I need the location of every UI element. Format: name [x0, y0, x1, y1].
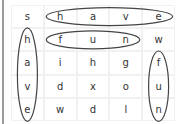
grid-cell[interactable]: g [109, 51, 142, 74]
grid-cell[interactable]: v [11, 75, 44, 98]
grid-cell[interactable]: n [109, 28, 142, 51]
grid-cell[interactable]: w [44, 98, 77, 121]
grid-cell[interactable]: u [77, 28, 110, 51]
grid-cell[interactable]: h [77, 51, 110, 74]
grid-cell[interactable]: e [11, 98, 44, 121]
grid-cell[interactable]: v [109, 5, 142, 28]
grid-cell[interactable]: o [109, 75, 142, 98]
grid-cell[interactable]: d [77, 98, 110, 121]
grid-cell[interactable]: n [142, 98, 175, 121]
word-search-grid: s h a v e h f u n w a i h g f v d x o u … [11, 5, 175, 121]
grid-cell[interactable]: a [11, 51, 44, 74]
grid-cell[interactable]: a [77, 5, 110, 28]
grid-cell[interactable]: x [77, 75, 110, 98]
grid-cell[interactable]: u [142, 75, 175, 98]
grid-cell[interactable]: i [44, 51, 77, 74]
grid-cell[interactable]: e [142, 5, 175, 28]
grid-cell[interactable]: d [44, 75, 77, 98]
grid-cell[interactable]: h [44, 5, 77, 28]
grid-cell[interactable]: f [44, 28, 77, 51]
grid-cell[interactable]: h [11, 28, 44, 51]
grid-cell[interactable]: l [109, 98, 142, 121]
left-border-line [2, 0, 4, 124]
grid-cell[interactable]: s [11, 5, 44, 28]
grid-cell[interactable]: f [142, 51, 175, 74]
grid-cell[interactable]: w [142, 28, 175, 51]
